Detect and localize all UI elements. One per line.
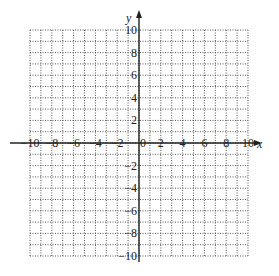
y-tick-label: 10 xyxy=(125,23,137,37)
y-axis-arrow-icon xyxy=(136,10,142,18)
coordinate-grid: −10−8−6−4−20246810 108642−2−4−6−8−10 x y xyxy=(0,0,279,276)
y-axis-label: y xyxy=(125,11,132,25)
y-tick-label: −8 xyxy=(124,226,137,240)
x-tick-label: −8 xyxy=(45,136,58,150)
x-tick-label: −10 xyxy=(21,136,40,150)
x-tick-label: −4 xyxy=(89,136,102,150)
x-tick-label: 8 xyxy=(223,136,229,150)
x-tick-label: −2 xyxy=(111,136,124,150)
y-tick-label: 6 xyxy=(131,68,137,82)
y-tick-label: 4 xyxy=(131,91,137,105)
x-tick-label: 0 xyxy=(140,136,146,150)
x-tick-label: −6 xyxy=(67,136,80,150)
x-tick-label: 4 xyxy=(180,136,186,150)
y-tick-label: −6 xyxy=(124,204,137,218)
x-tick-label: 6 xyxy=(201,136,207,150)
x-axis-label: x xyxy=(256,137,263,151)
x-tick-label: 10 xyxy=(242,136,254,150)
y-tick-label: −10 xyxy=(118,249,137,263)
y-tick-label: 2 xyxy=(131,113,137,127)
y-tick-label: 8 xyxy=(131,46,137,60)
y-tick-label: −4 xyxy=(124,181,137,195)
x-tick-label: 2 xyxy=(158,136,164,150)
y-tick-label: −2 xyxy=(124,159,137,173)
